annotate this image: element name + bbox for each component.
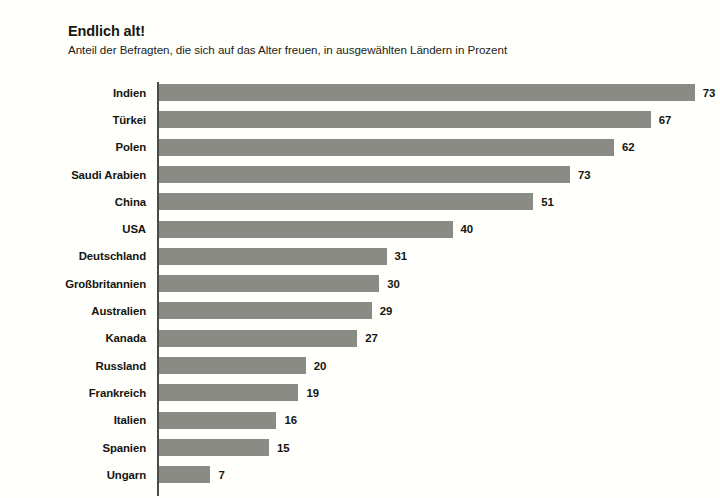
- bar-track: [159, 330, 357, 347]
- bar-category-label: Indien: [113, 87, 146, 99]
- plot-area: Indien73Türkei67Polen62Saudi Arabien73Ch…: [40, 78, 720, 498]
- bar-category-label: Saudi Arabien: [71, 169, 146, 181]
- bar-fill: [159, 139, 614, 156]
- bar-row: Polen62: [40, 134, 720, 161]
- bar-fill: [159, 412, 276, 429]
- bar-fill: [159, 275, 379, 292]
- bar-track: [159, 166, 570, 183]
- bar-track: [159, 439, 269, 456]
- bar-value-label: 16: [284, 414, 296, 426]
- bar-row: Großbritannien30: [40, 270, 720, 297]
- bar-track: [159, 357, 306, 374]
- bar-category-label: Frankreich: [89, 387, 146, 399]
- bar-fill: [159, 466, 210, 483]
- bar-track: [159, 111, 651, 128]
- bar-category-label: Deutschland: [79, 250, 146, 262]
- bar-row: Deutschland31: [40, 243, 720, 270]
- bar-track: [159, 275, 379, 292]
- bar-category-label: Russland: [96, 360, 146, 372]
- bar-value-label: 73: [578, 169, 590, 181]
- bar-category-label: Australien: [91, 305, 146, 317]
- bar-value-label: 7: [218, 469, 224, 481]
- bar-fill: [159, 221, 453, 238]
- bar-category-label: Spanien: [102, 442, 146, 454]
- bar-category-label: Italien: [114, 414, 146, 426]
- bar-category-label: USA: [122, 223, 146, 235]
- bar-value-label: 20: [314, 360, 326, 372]
- bar-row: Russland20: [40, 352, 720, 379]
- bar-category-label: Türkei: [112, 114, 146, 126]
- bar-value-label: 19: [306, 387, 318, 399]
- bar-fill: [159, 384, 298, 401]
- bar-value-label: 51: [541, 196, 553, 208]
- bar-chart-figure: Endlich alt! Anteil der Befragten, die s…: [40, 16, 658, 482]
- bar-fill: [159, 166, 570, 183]
- bar-track: [159, 302, 372, 319]
- bar-fill: [159, 84, 695, 101]
- bar-row: Ungarn7: [40, 461, 720, 488]
- bar-row: Italien16: [40, 407, 720, 434]
- bar-row: Kanada27: [40, 325, 720, 352]
- bar-row: USA40: [40, 216, 720, 243]
- page-title: Endlich alt!: [68, 22, 708, 40]
- bar-track: [159, 248, 387, 265]
- bar-value-label: 29: [380, 305, 392, 317]
- bar-track: [159, 139, 614, 156]
- bar-value-label: 15: [277, 442, 289, 454]
- bar-fill: [159, 439, 269, 456]
- bar-value-label: 30: [387, 278, 399, 290]
- bar-track: [159, 384, 298, 401]
- bar-track: [159, 221, 453, 238]
- bar-value-label: 31: [395, 250, 407, 262]
- bar-category-label: Großbritannien: [65, 278, 146, 290]
- bar-value-label: 62: [622, 141, 634, 153]
- bar-fill: [159, 330, 357, 347]
- bar-row: Indien73: [40, 79, 720, 106]
- bar-value-label: 67: [659, 114, 671, 126]
- bar-value-label: 40: [461, 223, 473, 235]
- bar-category-label: Polen: [115, 141, 146, 153]
- chart-subtitle: Anteil der Befragten, die sich auf das A…: [68, 42, 708, 58]
- bar-track: [159, 193, 533, 210]
- bar-row: Türkei67: [40, 106, 720, 133]
- bar-value-label: 27: [365, 332, 377, 344]
- bar-row: Australien29: [40, 297, 720, 324]
- bar-track: [159, 466, 210, 483]
- bar-row: China51: [40, 188, 720, 215]
- bar-track: [159, 412, 276, 429]
- bar-row: Spanien15: [40, 434, 720, 461]
- bar-category-label: China: [115, 196, 146, 208]
- bar-category-label: Ungarn: [107, 469, 146, 481]
- bar-row: Frankreich19: [40, 379, 720, 406]
- bar-row: Saudi Arabien73: [40, 161, 720, 188]
- bar-fill: [159, 248, 387, 265]
- bar-fill: [159, 111, 651, 128]
- bar-fill: [159, 357, 306, 374]
- bar-value-label: 73: [703, 87, 715, 99]
- bar-fill: [159, 302, 372, 319]
- bar-fill: [159, 193, 533, 210]
- bar-category-label: Kanada: [105, 332, 146, 344]
- chart-header: Endlich alt! Anteil der Befragten, die s…: [68, 22, 708, 58]
- bar-track: [159, 84, 695, 101]
